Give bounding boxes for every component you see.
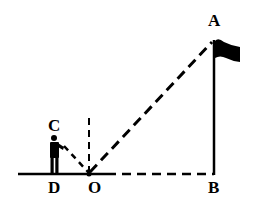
flag-icon [215,39,240,62]
label-A: A [208,11,221,30]
segment-OA [90,42,212,172]
reflection-diagram: A C D O B [0,0,258,210]
label-C: C [48,116,60,135]
segment-CO [64,146,89,173]
label-O: O [88,178,101,197]
label-D: D [48,178,60,197]
label-B: B [208,178,219,197]
point-O [87,172,92,177]
person-icon [50,135,64,174]
